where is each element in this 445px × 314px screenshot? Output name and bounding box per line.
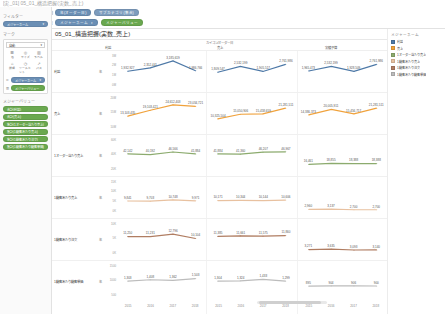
chart-panel[interactable]: 2,9603,1372,7002,700 <box>298 177 387 218</box>
chart-panel[interactable]: 3,2713,6353,0933,140 <box>298 219 387 260</box>
chart-panel[interactable]: 1,932,9272,352,4413,185,6191,986,766 <box>117 51 207 92</box>
data-label: 9,703 <box>147 196 155 200</box>
marks-button-tooltip[interactable]: ◷ ツールヒント <box>19 61 31 75</box>
chart-panel[interactable]: 10,17110,34410,14410,606 <box>207 177 297 218</box>
measure-value-item[interactable]: 合計(売上) <box>3 114 48 120</box>
row-header-label[interactable]: 1顧客あたり売上 <box>52 177 96 218</box>
legend-item[interactable]: 1オーダー当たり売上 <box>391 52 442 57</box>
shelf-pill-measure-values[interactable]: メジャーバリュー <box>101 19 143 26</box>
column-header-cell[interactable]: 実績予算 <box>275 45 387 50</box>
measure-value-item[interactable]: 集計(1顧客あたり顧客単価) <box>3 144 48 150</box>
data-label-layer <box>117 219 206 260</box>
measure-value-item[interactable]: 集計(1顧客あたり売上) <box>3 129 48 135</box>
chart-panel[interactable]: 895904906900 <box>298 261 387 302</box>
data-label: 41,884 <box>191 149 200 153</box>
chart-panel[interactable]: 41,88441,36046,20746,967 <box>207 135 297 176</box>
row-aggregation-label: 年 <box>96 51 104 92</box>
data-label: 15,458,659 <box>256 109 271 113</box>
chart-panels: 11,25011,23112,79610,10411,38511,66111,5… <box>117 219 387 260</box>
chart-panel[interactable]: 1,965,4732,532,1991,928,5092,761,986 <box>298 51 387 92</box>
sidebar: フィルター メジャーネーム ▾ マーク 自動 ▾ ☰ 色 ◎ サイズ ▥ ラベル… <box>0 7 52 314</box>
y-tick-label: 3M <box>112 54 116 58</box>
marks-button-color[interactable]: ☰ 色 <box>6 50 18 60</box>
chart-panel[interactable]: 1,3041,3241,4331,299 <box>207 261 297 302</box>
y-tick-label: 500 <box>111 293 116 297</box>
page-title: 05_01_構造把握(実数_売上) <box>52 29 387 40</box>
marks-pill-measure-names[interactable]: メジャーネーム ▾ <box>11 77 45 83</box>
legend-panel: メジャーネーム 利益売上1オーダー当たり売上1顧客あたり売上1顧客あたり注文1顧… <box>387 29 445 314</box>
data-label: 13,103,435 <box>120 111 135 115</box>
legend-item[interactable]: 1顧客あたり売上 <box>391 59 442 64</box>
marks-button-path[interactable]: ↗ パス <box>33 61 45 75</box>
data-label: 904 <box>328 281 333 285</box>
row-aggregation-label: 年 <box>96 135 104 176</box>
x-axis-panels: 2015201620172018201520162017201820152016… <box>117 302 387 314</box>
chart-panel[interactable]: 14,386,37320,005,91115,456,71721,281,511 <box>298 93 387 134</box>
data-label: 2,532,199 <box>234 61 247 65</box>
measure-value-item[interactable]: 集計(1顧客あたり注文) <box>3 136 48 142</box>
legend-item-label: 1顧客あたり顧客単価 <box>397 72 426 77</box>
scrollbar-thumb[interactable] <box>259 301 321 304</box>
measure-value-item[interactable]: 集計(1オーダー当たり売上) <box>3 121 48 127</box>
data-label: 46,967 <box>281 147 290 151</box>
chart-panel[interactable]: 1,809,5472,532,1991,905,5172,761,986 <box>207 51 297 92</box>
measure-value-item[interactable]: 合計(利益) <box>3 106 48 112</box>
chevron-down-icon[interactable]: ▾ <box>42 22 44 26</box>
chevron-down-icon[interactable]: ▾ <box>91 21 93 25</box>
chart-panel[interactable]: 9,8419,70310,7489,971 <box>117 177 207 218</box>
row-header-label[interactable]: 1オーダー当たり売上 <box>52 135 96 176</box>
marks-button-size[interactable]: ◎ サイズ <box>19 50 31 60</box>
y-axis: 15K10K5K0K <box>104 177 117 218</box>
chart-panels: 9,8419,70310,7489,97110,17110,34410,1441… <box>117 177 387 218</box>
x-tick-label: 2017 <box>342 302 364 314</box>
mark-type-select[interactable]: 自動 ▾ <box>6 42 45 48</box>
row-header-label[interactable]: 1顧客あたり注文 <box>52 219 96 260</box>
chevron-down-icon[interactable]: ▾ <box>40 43 42 47</box>
marks-pill-measure-values[interactable]: メジャーバリュー <box>11 85 45 91</box>
chart-panel[interactable]: 11,25011,23112,79610,104 <box>117 219 207 260</box>
legend-item-label: 1オーダー当たり売上 <box>397 52 426 57</box>
legend-item[interactable]: 売上 <box>391 46 442 51</box>
data-label-layer <box>207 51 296 92</box>
legend-item[interactable]: 利益 <box>391 39 442 44</box>
data-label-layer <box>117 261 206 302</box>
marks-button-grid: ☰ 色 ◎ サイズ ▥ ラベル ⌂ 詳細 ◷ ツールヒント ↗ パス <box>6 50 45 75</box>
row-header-label[interactable]: 売上 <box>52 93 96 134</box>
y-tick-label: 1500 <box>110 264 116 268</box>
marks-shelf-color[interactable]: ⬌ メジャーネーム ▾ <box>6 77 45 83</box>
legend-item[interactable]: 1顧客あたり注文 <box>391 65 442 70</box>
row-header-label[interactable]: 利益 <box>52 51 96 92</box>
marks-button-detail[interactable]: ⌂ 詳細 <box>6 61 18 75</box>
legend-item-label: 1顧客あたり売上 <box>397 59 420 64</box>
data-label: 11,231 <box>146 231 155 235</box>
chevron-down-icon[interactable]: ▾ <box>39 78 41 82</box>
column-header-cell[interactable]: 利益 <box>52 45 164 50</box>
chart-panel[interactable]: 1,3031,4081,3621,503 <box>117 261 207 302</box>
column-header-cell[interactable]: 売上 <box>164 45 276 50</box>
horizontal-scrollbar[interactable] <box>257 301 327 304</box>
shelf-pill-year-order-date[interactable]: 年(オーダー日) <box>55 9 91 16</box>
shelf-pill-subcategory-set[interactable]: サブカテゴリ(集合) <box>94 9 138 16</box>
y-tick-label: 20M <box>111 96 116 100</box>
columns-shelf[interactable]: 列 年(オーダー日) サブカテゴリ(集合) <box>55 8 139 17</box>
chart-panel[interactable]: 10,325,50415,050,90615,458,65921,281,511 <box>207 93 297 134</box>
filter-pill-measure-names[interactable]: メジャーネーム ▾ <box>3 21 48 27</box>
chart-panel[interactable]: 11,38511,66111,57511,860 <box>207 219 297 260</box>
chart-panel[interactable]: 13,103,43519,103,42124,612,40323,034,721 <box>117 93 207 134</box>
legend-item-label: 1顧客あたり注文 <box>397 65 420 70</box>
rows-shelf[interactable]: 行 メジャーネーム ▾ メジャーバリュー <box>55 18 143 27</box>
y-tick-label: 1M <box>112 73 116 77</box>
chart-panel[interactable]: 42,14240,19246,56641,884 <box>117 135 207 176</box>
data-label-layer <box>298 135 387 176</box>
legend-item[interactable]: 1顧客あたり顧客単価 <box>391 72 442 77</box>
chart-panel[interactable]: 16,46118,85518,38818,388 <box>298 135 387 176</box>
data-label: 3,140 <box>372 245 380 249</box>
marks-button-label[interactable]: ▥ ラベル <box>33 50 45 60</box>
data-label: 1,324 <box>237 276 245 280</box>
marks-shelf-label[interactable]: ▥ メジャーバリュー <box>6 85 45 91</box>
data-label: 10,344 <box>236 195 245 199</box>
data-label: 24,612,403 <box>165 100 180 104</box>
row-header-label[interactable]: 1顧客あたり顧客単価 <box>52 261 96 302</box>
data-label: 1,932,927 <box>121 66 134 70</box>
shelf-pill-measure-names[interactable]: メジャーネーム ▾ <box>55 19 98 26</box>
